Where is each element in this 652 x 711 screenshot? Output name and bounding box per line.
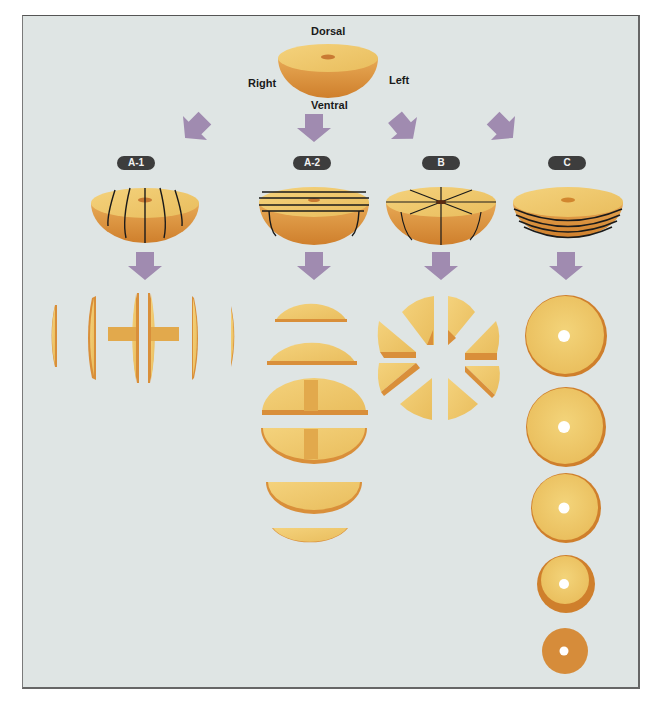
arrow-to-a1 xyxy=(173,106,217,150)
badge-a1: A-1 xyxy=(117,156,155,170)
arrow-to-c xyxy=(481,106,525,150)
arrow-to-a2 xyxy=(297,114,331,142)
label-ventral: Ventral xyxy=(311,99,348,111)
hemisphere-a1 xyxy=(91,188,199,243)
badge-a2: A-2 xyxy=(293,156,331,170)
a1-slices xyxy=(52,293,235,383)
arrow-c-down xyxy=(549,252,583,280)
badge-b: B xyxy=(422,156,460,170)
label-dorsal: Dorsal xyxy=(311,25,345,37)
a2-slices xyxy=(261,304,368,543)
hemisphere-a2 xyxy=(259,187,369,245)
hemisphere-c xyxy=(513,187,623,238)
b-wedges xyxy=(378,296,500,420)
arrow-a2-down xyxy=(297,252,331,280)
reference-hemisphere xyxy=(278,44,378,98)
badge-c: C xyxy=(548,156,586,170)
c-discs xyxy=(525,295,607,674)
hemisphere-b xyxy=(386,187,496,245)
arrow-a1-down xyxy=(128,252,162,280)
arrow-to-b xyxy=(382,106,426,149)
label-right: Right xyxy=(248,77,276,89)
label-left: Left xyxy=(389,74,409,86)
arrow-b-down xyxy=(424,252,458,280)
